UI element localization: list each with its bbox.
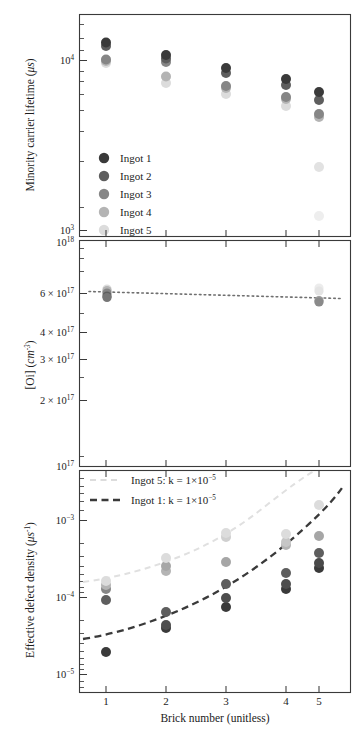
panel-mid-ytick-3e17: 3 × 1017 xyxy=(40,353,75,365)
xtick-label-4: 4 xyxy=(283,695,289,707)
panel-mid-yticks xyxy=(80,249,88,467)
panel-mid-ytick-4e17: 4 × 1017 xyxy=(40,326,75,338)
figure-container: 104 103 Minority carrier lifetime (μs) xyxy=(0,0,364,734)
panel-bot-legend: Ingot 5: k = 1×10−5 Ingot 1: k = 1×10−5 xyxy=(90,474,216,506)
legend-label-ingot-5: Ingot 5 xyxy=(120,224,152,236)
panel-interstitial-oxygen: 1018 6 × 1017 4 × 1017 3 × 1017 2 × 1017… xyxy=(24,236,351,472)
legend-label-ingot-3: Ingot 3 xyxy=(120,188,152,200)
panel-bot-yticks xyxy=(80,479,88,688)
panel-bot-data xyxy=(101,500,324,657)
legend-label-ingot-2: Ingot 2 xyxy=(120,170,151,182)
panel-mid-ytick-1e18: 1018 xyxy=(56,236,74,248)
fit-curve-ingot-5 xyxy=(83,471,314,582)
panel-mid-xticks xyxy=(106,241,319,467)
panel-bot-ytick-1e-3: 10−3 xyxy=(56,514,75,526)
panel-bot-frame xyxy=(80,471,351,693)
legend-label-ingot-4: Ingot 4 xyxy=(120,206,152,218)
legend-marker-ingot-2 xyxy=(99,171,109,181)
panel-top-legend: Ingot 1 Ingot 2 Ingot 3 Ingot 4 Ingot 5 xyxy=(99,152,152,236)
panel-bot-ylabel: Effective defect density (μs-1) xyxy=(24,522,37,658)
legend-marker-ingot-1 xyxy=(99,153,109,163)
legend-marker-ingot-4 xyxy=(99,207,109,217)
legend-marker-ingot-3 xyxy=(99,189,109,199)
panel-bot-ytick-1e-5: 10−5 xyxy=(56,668,75,680)
legend-label-ingot-1: Ingot 1 xyxy=(120,152,151,164)
panel-bot-ytick-1e-4: 10−4 xyxy=(56,591,75,603)
panel-mid-ytick-2e17: 2 × 1017 xyxy=(40,394,75,406)
xtick-label-3: 3 xyxy=(223,695,229,707)
panel-mid-ytick-1e17: 1017 xyxy=(56,460,74,472)
panel-top-frame xyxy=(80,15,351,237)
panel-mid-trendline xyxy=(89,292,341,299)
xtick-label-5: 5 xyxy=(316,695,322,707)
legend-label-ingot-1-fit: Ingot 1: k = 1×10−5 xyxy=(131,494,216,506)
legend-label-ingot-5-fit: Ingot 5: k = 1×10−5 xyxy=(131,474,216,486)
legend-marker-ingot-5 xyxy=(99,225,109,235)
panel-effective-defect-density: 10−3 10−4 10−5 Effective defect density … xyxy=(24,471,351,726)
figure-svg: 104 103 Minority carrier lifetime (μs) xyxy=(0,0,364,734)
panel-mid-ylabel: [Oi] (cm-3) xyxy=(24,340,37,389)
panel-mid-ytick-6e17: 6 × 1017 xyxy=(40,287,75,299)
x-axis-label: Brick number (unitless) xyxy=(160,712,269,725)
panel-top-yticks xyxy=(80,25,88,231)
panel-minority-carrier-lifetime: 104 103 Minority carrier lifetime (μs) xyxy=(24,15,351,237)
xtick-label-1: 1 xyxy=(103,695,109,707)
panel-mid-frame xyxy=(80,241,351,467)
panel-top-ylabel: Minority carrier lifetime (μs) xyxy=(24,58,37,191)
fit-curve-ingot-1 xyxy=(83,488,342,639)
panel-top-ytick-1e3: 103 xyxy=(60,224,75,236)
panel-top-ytick-1e4: 104 xyxy=(60,54,75,66)
xtick-label-2: 2 xyxy=(163,695,169,707)
